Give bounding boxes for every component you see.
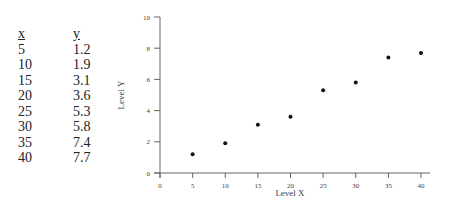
x-tick-label: 5 [191,182,195,190]
x-axis-label: Level X [275,188,305,198]
y-tick-label: 0 [147,170,151,178]
y-tick-label: 10 [143,14,151,22]
y-axis-label: Level Y [116,80,126,109]
x-tick-label: 40 [418,182,426,190]
y-tick-label: 2 [147,138,151,146]
data-point [256,123,260,127]
data-point [289,115,293,119]
x-tick-label: 25 [320,182,328,190]
chart-axes: 05101520253035400246810 [143,14,430,191]
scatter-chart: 05101520253035400246810 Level X Level Y [0,0,450,212]
data-point [386,56,390,60]
data-point [419,51,423,55]
data-point [354,81,358,85]
x-tick-label: 0 [158,182,162,190]
data-point [223,141,227,145]
x-tick-label: 30 [352,182,360,190]
data-point [321,88,325,92]
data-points [191,51,423,156]
data-point [191,152,195,156]
y-tick-label: 4 [147,107,151,115]
x-tick-label: 15 [254,182,262,190]
y-tick-label: 8 [147,45,151,53]
x-tick-label: 10 [222,182,230,190]
y-tick-label: 6 [147,76,151,84]
x-tick-label: 35 [385,182,393,190]
